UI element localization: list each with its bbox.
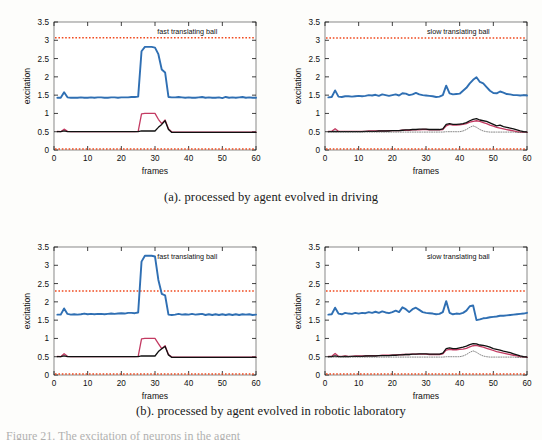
- y-tick-label: 2: [315, 298, 320, 307]
- y-tick-label: 0.5: [309, 353, 321, 362]
- x-tick-label: 50: [218, 154, 228, 163]
- y-tick-label: 3: [44, 261, 49, 270]
- y-tick-label: 2: [315, 73, 320, 82]
- y-tick-label: 0: [44, 371, 49, 380]
- x-tick-label: 30: [421, 154, 431, 163]
- figure-row-a: 00.511.522.533.50102030405060fast transl…: [0, 8, 542, 188]
- y-tick-label: 1: [315, 334, 320, 343]
- y-tick-label: 1.5: [309, 91, 321, 100]
- x-tick-label: 60: [251, 379, 261, 388]
- figure-caption-text: Figure 21. The excitation of neurons in …: [6, 430, 542, 440]
- y-tick-label: 2: [44, 73, 49, 82]
- y-tick-label: 0.5: [38, 128, 50, 137]
- x-tick-label: 10: [83, 154, 93, 163]
- plot-panel-b-right: 00.511.522.533.50102030405060slow transl…: [285, 233, 535, 413]
- x-tick-label: 50: [218, 379, 228, 388]
- x-tick-label: 30: [421, 379, 431, 388]
- plot-svg-b-left: 00.511.522.533.50102030405060fast transl…: [14, 233, 264, 413]
- y-axis-title: excitation: [293, 68, 303, 105]
- x-tick-label: 60: [522, 154, 532, 163]
- x-axis-title: frames: [413, 391, 439, 401]
- y-tick-label: 0: [315, 371, 320, 380]
- x-axis-title: frames: [142, 166, 168, 176]
- plot-annotation-label: fast translating ball: [157, 27, 217, 36]
- y-tick-label: 3: [44, 36, 49, 45]
- y-tick-label: 3.5: [38, 243, 50, 252]
- plot-panel-a-right: 00.511.522.533.50102030405060slow transl…: [285, 8, 535, 188]
- y-tick-label: 2.5: [309, 280, 321, 289]
- y-axis-title: excitation: [293, 293, 303, 330]
- y-tick-label: 1: [44, 334, 49, 343]
- x-axis-title: frames: [142, 391, 168, 401]
- y-axis-title: excitation: [22, 293, 32, 330]
- plot-svg-a-left: 00.511.522.533.50102030405060fast transl…: [14, 8, 264, 188]
- y-tick-label: 0.5: [309, 128, 321, 137]
- plot-annotation-label: slow translating ball: [427, 252, 490, 261]
- subfigure-caption-b: (b). processed by agent evolved in robot…: [0, 404, 542, 419]
- x-tick-label: 30: [150, 379, 160, 388]
- y-tick-label: 1.5: [38, 91, 50, 100]
- x-tick-label: 0: [323, 379, 328, 388]
- x-tick-label: 50: [489, 154, 499, 163]
- y-tick-label: 3.5: [309, 243, 321, 252]
- y-tick-label: 3.5: [38, 18, 50, 27]
- y-tick-label: 0: [315, 146, 320, 155]
- y-tick-label: 0: [44, 146, 49, 155]
- y-tick-label: 3: [315, 36, 320, 45]
- plot-annotation-label: slow translating ball: [427, 27, 490, 36]
- plot-panel-b-left: 00.511.522.533.50102030405060fast transl…: [14, 233, 264, 413]
- x-tick-label: 20: [388, 379, 398, 388]
- y-tick-label: 2.5: [38, 280, 50, 289]
- x-tick-label: 40: [184, 379, 194, 388]
- x-tick-label: 10: [354, 379, 364, 388]
- x-tick-label: 30: [150, 154, 160, 163]
- plot-panel-a-left: 00.511.522.533.50102030405060fast transl…: [14, 8, 264, 188]
- y-tick-label: 2: [44, 298, 49, 307]
- x-tick-label: 10: [354, 154, 364, 163]
- x-tick-label: 40: [455, 379, 465, 388]
- plot-annotation-label: fast translating ball: [157, 252, 217, 261]
- figure-container: 00.511.522.533.50102030405060fast transl…: [0, 0, 542, 440]
- figure-row-b: 00.511.522.533.50102030405060fast transl…: [0, 233, 542, 413]
- x-tick-label: 40: [455, 154, 465, 163]
- x-tick-label: 20: [117, 379, 127, 388]
- y-tick-label: 1: [44, 109, 49, 118]
- y-tick-label: 2.5: [309, 55, 321, 64]
- x-tick-label: 10: [83, 379, 93, 388]
- x-tick-label: 60: [251, 154, 261, 163]
- y-axis-title: excitation: [22, 68, 32, 105]
- y-tick-label: 1: [315, 109, 320, 118]
- plot-svg-a-right: 00.511.522.533.50102030405060slow transl…: [285, 8, 535, 188]
- y-tick-label: 3.5: [309, 18, 321, 27]
- y-tick-label: 2.5: [38, 55, 50, 64]
- x-tick-label: 0: [52, 379, 57, 388]
- x-axis-title: frames: [413, 166, 439, 176]
- plot-svg-b-right: 00.511.522.533.50102030405060slow transl…: [285, 233, 535, 413]
- y-tick-label: 0.5: [38, 353, 50, 362]
- y-tick-label: 3: [315, 261, 320, 270]
- x-tick-label: 40: [184, 154, 194, 163]
- x-tick-label: 20: [117, 154, 127, 163]
- x-tick-label: 0: [323, 154, 328, 163]
- subfigure-caption-a: (a). processed by agent evolved in drivi…: [0, 190, 542, 205]
- x-tick-label: 0: [52, 154, 57, 163]
- x-tick-label: 20: [388, 154, 398, 163]
- y-tick-label: 1.5: [38, 316, 50, 325]
- figure-caption-cutoff: Figure 21. The excitation of neurons in …: [6, 430, 542, 440]
- x-tick-label: 50: [489, 379, 499, 388]
- y-tick-label: 1.5: [309, 316, 321, 325]
- x-tick-label: 60: [522, 379, 532, 388]
